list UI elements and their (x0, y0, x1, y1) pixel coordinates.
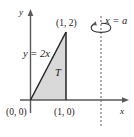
x-axis-label: x (119, 106, 124, 116)
y-axis-arrow-icon (28, 9, 34, 16)
curve-equation-label: y = 2x (22, 48, 50, 59)
triangle-revolution-diagram: y x y = 2x T x = a (0, 0) (1, 0) (1, 2) (0, 0, 134, 137)
rotation-arrow-head-icon (92, 21, 97, 25)
figure-container: y x y = 2x T x = a (0, 0) (1, 0) (1, 2) (0, 0, 134, 137)
vertex-label-origin: (0, 0) (6, 107, 27, 118)
vertex-label-top: (1, 2) (56, 18, 77, 29)
y-axis-label: y (18, 7, 23, 17)
x-axis-arrow-icon (122, 97, 129, 103)
vertex-label-bottom-right: (1, 0) (54, 107, 75, 118)
rotation-axis-label: x = a (104, 15, 127, 26)
